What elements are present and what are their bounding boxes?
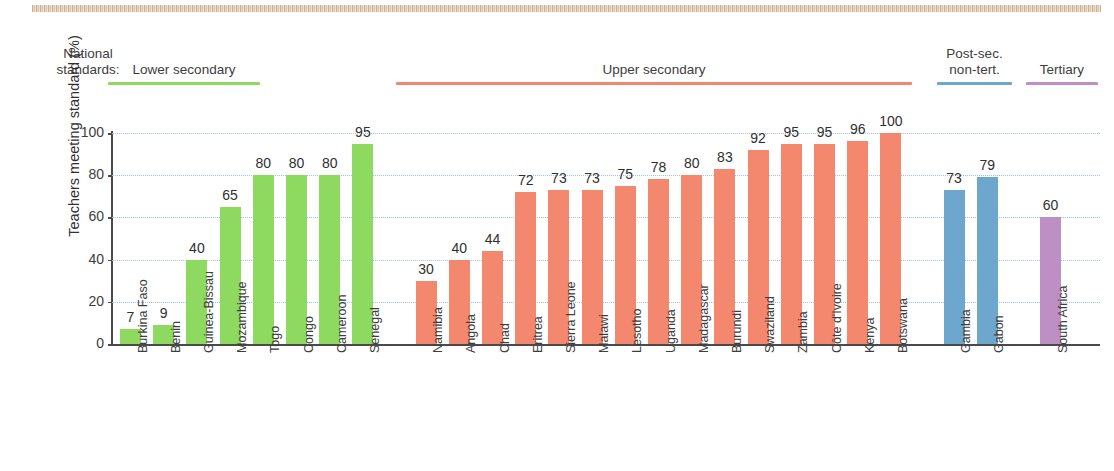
legend-rule-tertiary [1026, 82, 1098, 85]
y-tick-label-100: 100 [64, 124, 104, 140]
legend-label-tertiary: Tertiary [1026, 62, 1098, 78]
legend-item-upper-secondary: Upper secondary [396, 62, 912, 85]
x-category-label: Namibia [431, 307, 445, 353]
x-category-label: Côte d'Ivoire [830, 283, 844, 353]
x-category-label: Madagascar [697, 284, 711, 353]
x-category-label: Benin [169, 321, 183, 353]
legend-label-post-sec-line-2: non-tert. [937, 62, 1012, 78]
decorative-top-band [32, 5, 1101, 12]
chart-legend: National standards: Lower secondary Uppe… [0, 40, 1114, 102]
plot-area: 7940658080809530404472737375788083929595… [112, 133, 1100, 344]
legend-label-post-sec-line-1: Post-sec. [937, 46, 1012, 62]
bar [253, 175, 274, 344]
gridline-100 [112, 133, 1100, 134]
y-tick-label-80: 80 [64, 166, 104, 182]
legend-item-tertiary: Tertiary [1026, 62, 1098, 85]
y-tick-label-60: 60 [64, 208, 104, 224]
x-category-label: Burundi [730, 310, 744, 353]
bar-value-label: 100 [870, 113, 911, 129]
x-category-label: Eritrea [531, 316, 545, 353]
legend-label-lower-secondary: Lower secondary [108, 62, 260, 78]
bar-value-label: 79 [967, 157, 1008, 173]
y-tick-label-20: 20 [64, 293, 104, 309]
bar-value-label: 44 [472, 231, 513, 247]
bar-value-label: 40 [176, 240, 217, 256]
bar-value-label: 30 [406, 261, 447, 277]
x-category-label: Malawi [597, 314, 611, 353]
bar-value-label: 95 [342, 124, 383, 140]
x-category-label: Gambia [959, 309, 973, 353]
x-category-label: Sierra Leone [564, 281, 578, 353]
legend-caption-line-1: National [34, 46, 142, 62]
x-category-label: Swaziland [763, 296, 777, 353]
x-category-label: Mozambique [235, 281, 249, 353]
legend-label-upper-secondary: Upper secondary [396, 62, 912, 78]
x-category-label: Uganda [664, 309, 678, 353]
bar-value-label: 65 [210, 187, 251, 203]
x-category-label: Congo [302, 316, 316, 353]
x-category-label: Zambia [796, 311, 810, 353]
x-category-label: Angola [464, 314, 478, 353]
legend-rule-lower-secondary [108, 82, 260, 85]
y-tick-label-40: 40 [64, 251, 104, 267]
x-category-label: South Africa [1056, 286, 1070, 353]
x-category-label: Burkina Faso [136, 279, 150, 353]
bar-value-label: 83 [704, 149, 745, 165]
chart-page: National standards: Lower secondary Uppe… [0, 0, 1114, 471]
x-category-label: Cameroon [335, 295, 349, 353]
x-category-label: Botswana [896, 298, 910, 353]
x-category-label: Togo [268, 326, 282, 353]
x-category-label: Lesotho [630, 309, 644, 353]
legend-item-post-sec-non-tert: Post-sec. non-tert. [937, 46, 1012, 85]
legend-rule-post-sec-non-tert [937, 82, 1012, 85]
x-category-label: Gabon [992, 315, 1006, 353]
y-tick-label-0: 0 [64, 335, 104, 351]
bar [847, 141, 868, 344]
x-category-label: Senegal [368, 307, 382, 353]
bar-value-label: 60 [1030, 197, 1071, 213]
bar-value-label: 80 [309, 155, 350, 171]
legend-rule-upper-secondary [396, 82, 912, 85]
x-category-label: Guinea-Bissau [202, 271, 216, 353]
legend-item-lower-secondary: Lower secondary [108, 62, 260, 85]
x-category-label: Kenya [863, 318, 877, 353]
x-category-label: Chad [498, 323, 512, 353]
